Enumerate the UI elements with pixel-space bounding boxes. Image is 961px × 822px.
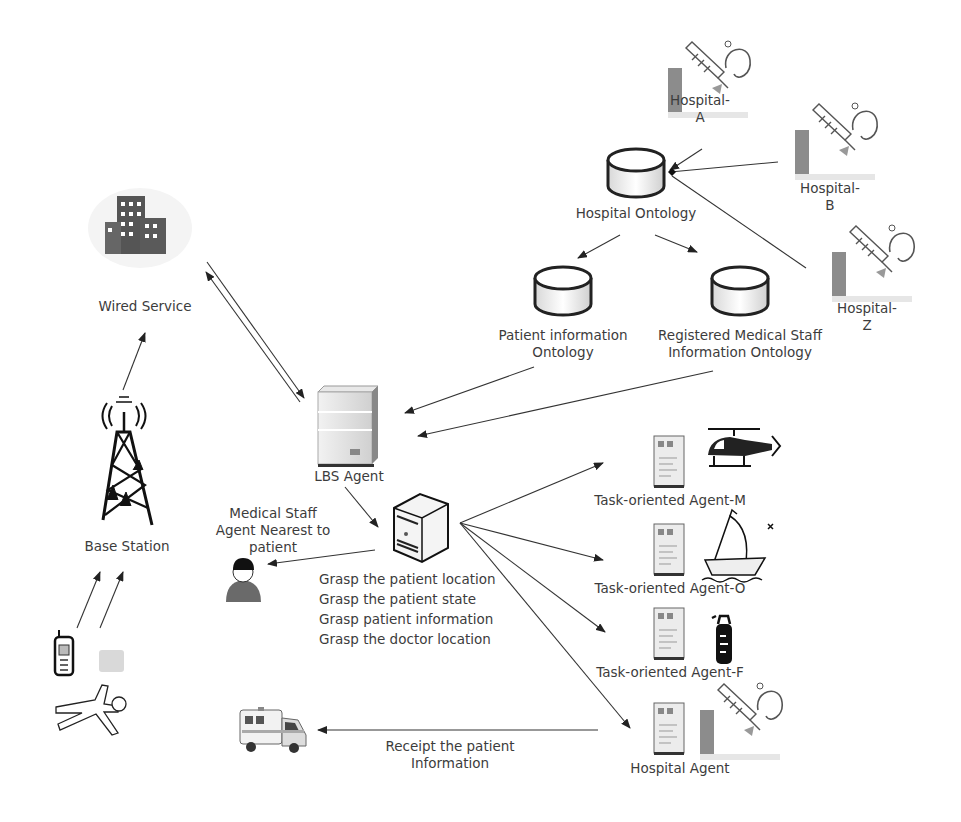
edge-staff-ontology-to-lbs xyxy=(418,371,713,436)
server-icon xyxy=(318,386,378,467)
hospital-b-label: Hospital- B xyxy=(780,180,880,214)
helicopter-icon xyxy=(708,429,780,466)
hospital-a-label: Hospital- A xyxy=(650,92,750,126)
antenna-tower-icon xyxy=(103,397,153,525)
task-item: Grasp the patient state xyxy=(319,589,496,609)
agent-f-label: Task-oriented Agent-F xyxy=(570,664,770,681)
patient-ontology-database-icon xyxy=(535,267,591,315)
person-icon xyxy=(226,558,261,602)
diagram-canvas xyxy=(0,0,961,822)
server-tasks-list: Grasp the patient location Grasp the pat… xyxy=(319,569,496,649)
base-station-label: Base Station xyxy=(62,538,192,555)
staff-ontology-database-icon xyxy=(712,267,768,315)
fallen-person-icon xyxy=(56,685,126,735)
lbs-agent-label: LBS Agent xyxy=(294,468,404,485)
edge-ontology-to-staff xyxy=(655,235,697,252)
patient-ontology-label: Patient information Ontology xyxy=(478,327,648,361)
boat-icon xyxy=(702,510,773,582)
edge-server-to-agent-o xyxy=(460,523,603,560)
staff-ontology-label: Registered Medical Staff Information Ont… xyxy=(640,327,840,361)
edge-sensor-to-base xyxy=(100,572,123,628)
hospital-ontology-database-icon xyxy=(608,149,664,197)
hospital-agent-label: Hospital Agent xyxy=(610,760,750,777)
task-item: Grasp the patient location xyxy=(319,569,496,589)
fire-extinguisher-icon xyxy=(712,616,732,664)
edge-hospital-b-to-ontology xyxy=(670,162,778,172)
medical-staff-label: Medical Staff Agent Nearest to patient xyxy=(208,505,338,556)
wired-service-label: Wired Service xyxy=(80,298,210,315)
agent-o-server-icon xyxy=(654,524,684,576)
edge-hospital-a-to-ontology xyxy=(670,149,702,170)
edge-wired-to-lbs xyxy=(207,262,304,398)
agent-m-label: Task-oriented Agent-M xyxy=(570,492,770,509)
task-item: Grasp the doctor location xyxy=(319,629,496,649)
edge-lbs-to-wired xyxy=(206,272,300,402)
edge-ontology-to-patient xyxy=(578,235,620,258)
task-item: Grasp patient information xyxy=(319,609,496,629)
agent-o-label: Task-oriented Agent-O xyxy=(570,580,770,597)
agent-f-server-icon xyxy=(654,608,684,660)
building-icon xyxy=(88,188,192,268)
agent-m-server-icon xyxy=(654,436,684,488)
edge-phone-to-base xyxy=(77,572,100,628)
mobile-phone-icon xyxy=(55,630,73,675)
ambulance-icon xyxy=(240,707,306,753)
tower-server-icon xyxy=(394,494,448,562)
hospital-agent-hospital-icon xyxy=(700,683,782,760)
hospital-ontology-label: Hospital Ontology xyxy=(556,205,716,222)
hospital-z-icon xyxy=(832,225,914,302)
hospital-b-icon xyxy=(795,103,877,180)
hospital-agent-server-icon xyxy=(654,703,684,755)
edge-lbs-to-server xyxy=(345,487,378,527)
edge-base-to-wired xyxy=(123,333,145,390)
receipt-label: Receipt the patient Information xyxy=(360,738,540,772)
sensor-device-icon xyxy=(99,650,124,672)
edge-patient-ontology-to-lbs xyxy=(405,367,534,413)
